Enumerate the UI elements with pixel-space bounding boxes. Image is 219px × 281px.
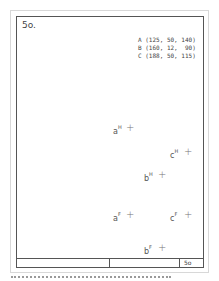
coord-c: C (188, 50, 115)	[138, 52, 196, 60]
point-cF-marker: +	[184, 209, 192, 220]
cropped-caption-text	[11, 276, 171, 281]
title-block-divider	[109, 259, 110, 268]
label-cH: cH	[170, 148, 178, 160]
label-aF: aF	[113, 211, 121, 223]
title-block-divider	[179, 259, 180, 268]
point-aF-marker: +	[126, 209, 134, 220]
label-cF: cF	[170, 211, 177, 223]
point-bF-marker: +	[158, 242, 166, 253]
given-coordinates: A (125, 50, 140)B (160, 12, 90)C (188, 5…	[138, 36, 196, 60]
label-aH: aH	[113, 124, 122, 136]
sheet-number: 5o.	[22, 20, 36, 30]
title-block: 5o	[16, 258, 204, 268]
point-cH-marker: +	[184, 146, 192, 157]
title-block-sheet-label: 5o	[184, 259, 192, 266]
label-bH: bH	[144, 171, 153, 183]
point-aH-marker: +	[126, 122, 134, 133]
point-bH-marker: +	[158, 169, 166, 180]
coord-b: B (160, 12, 90)	[138, 44, 196, 52]
label-bF: bF	[144, 244, 152, 256]
coord-a: A (125, 50, 140)	[138, 36, 196, 44]
